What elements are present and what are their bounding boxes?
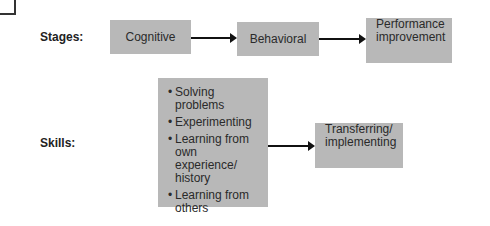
stages-label: Stages: xyxy=(40,30,83,44)
outcome-transferring-implementing: Transferring/ implementing xyxy=(315,123,403,168)
stage-performance-improvement: Performance improvement xyxy=(366,18,452,63)
skill-item: Experimenting xyxy=(168,116,262,129)
skill-item: Solving problems xyxy=(168,86,262,112)
arrow-behavioral-to-performance-icon xyxy=(319,38,364,40)
skill-item: Learning from own experience/ history xyxy=(168,133,262,185)
stage-behavioral: Behavioral xyxy=(237,22,319,56)
skill-item: Learning from others xyxy=(168,189,262,215)
stage-performance-line2: improvement xyxy=(376,31,445,44)
outcome-line2: implementing xyxy=(325,136,396,149)
arrow-cognitive-to-behavioral-icon xyxy=(191,37,235,39)
stage-behavioral-label: Behavioral xyxy=(250,33,307,46)
arrow-skills-to-transferring-icon xyxy=(268,145,313,147)
skills-list: Solving problems Experimenting Learning … xyxy=(168,86,262,215)
skills-list-box: Solving problems Experimenting Learning … xyxy=(158,78,268,207)
stage-cognitive: Cognitive xyxy=(110,20,191,54)
corner-mark-horizontal xyxy=(0,13,16,15)
skills-label: Skills: xyxy=(40,136,75,150)
stage-cognitive-label: Cognitive xyxy=(125,31,175,44)
